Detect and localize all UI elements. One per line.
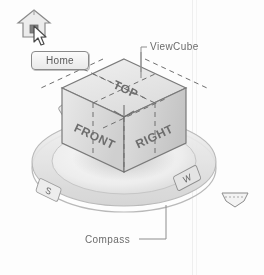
home-tooltip-label: Home [46, 56, 74, 66]
figure-canvas: N E S W [0, 0, 264, 275]
home-tooltip: Home [31, 51, 89, 70]
viewcube-callout-label: ViewCube [150, 41, 199, 52]
compass-callout-label: Compass [85, 234, 130, 245]
arrow-cursor-shape [34, 26, 46, 45]
home-widget[interactable]: Home [14, 8, 98, 74]
menu-button-shape [222, 193, 248, 207]
arrow-cursor [33, 25, 49, 47]
viewcube-menu-button[interactable] [222, 193, 248, 207]
